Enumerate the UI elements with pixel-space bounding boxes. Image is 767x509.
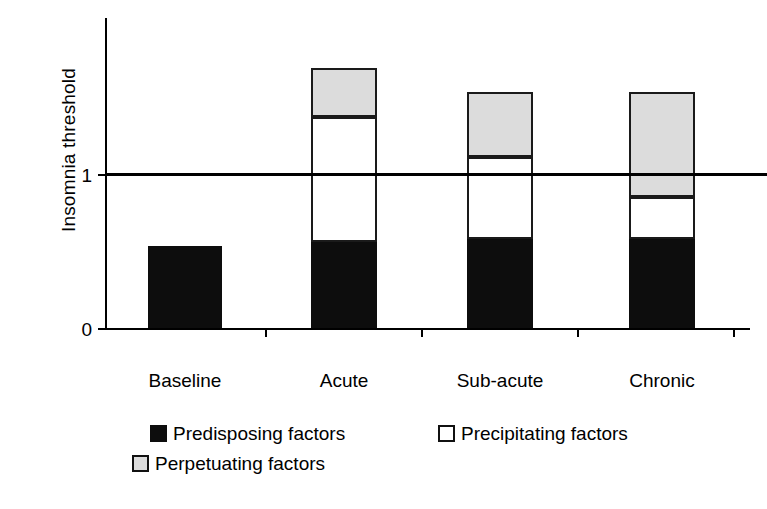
bar-chronic-segment-predisposing[interactable] — [629, 239, 695, 328]
y-axis-title: Insomnia threshold — [46, 0, 92, 300]
legend-swatch-precipitating-icon — [438, 425, 455, 442]
bar-sub-acute[interactable] — [467, 16, 533, 328]
bar-baseline-segment-predisposing[interactable] — [148, 246, 222, 328]
x-axis-label-sub-acute: Sub-acute — [457, 370, 544, 392]
legend-item-perpetuating[interactable]: Perpetuating factors — [132, 454, 325, 473]
insomnia-threshold-stacked-bar-chart: Insomnia threshold 0 1 — [0, 0, 767, 509]
legend-swatch-perpetuating-icon — [132, 455, 149, 472]
bar-sub-acute-segment-predisposing[interactable] — [467, 239, 533, 328]
y-tick-0: 0 — [98, 328, 106, 330]
bar-sub-acute-segment-perpetuating[interactable] — [467, 92, 533, 157]
x-axis-label-chronic: Chronic — [629, 370, 694, 392]
bar-acute-segment-perpetuating[interactable] — [311, 68, 377, 117]
bar-acute[interactable] — [311, 16, 377, 328]
legend-label-predisposing: Predisposing factors — [173, 424, 345, 443]
x-tick-1 — [265, 328, 267, 337]
x-axis-label-acute: Acute — [320, 370, 369, 392]
y-tick-label-0: 0 — [81, 320, 92, 339]
bar-acute-segment-precipitating[interactable] — [311, 117, 377, 242]
legend-swatch-predisposing-icon — [150, 425, 167, 442]
x-tick-3 — [577, 328, 579, 337]
bar-chronic-segment-precipitating[interactable] — [629, 197, 695, 239]
x-tick-4 — [733, 328, 735, 337]
x-tick-2 — [421, 328, 423, 337]
legend-item-predisposing[interactable]: Predisposing factors — [150, 424, 345, 443]
insomnia-threshold-line — [105, 173, 767, 176]
legend-label-precipitating: Precipitating factors — [461, 424, 628, 443]
bar-baseline[interactable] — [148, 16, 222, 328]
bar-acute-segment-predisposing[interactable] — [311, 242, 377, 328]
bar-chronic[interactable] — [629, 16, 695, 328]
bar-chronic-segment-perpetuating[interactable] — [629, 92, 695, 197]
legend-label-perpetuating: Perpetuating factors — [155, 454, 325, 473]
x-axis-label-baseline: Baseline — [149, 370, 222, 392]
plot-area: 0 1 — [105, 18, 750, 330]
x-axis-line — [105, 328, 750, 330]
y-tick-label-1: 1 — [81, 166, 92, 185]
bar-sub-acute-segment-precipitating[interactable] — [467, 157, 533, 239]
legend-item-precipitating[interactable]: Precipitating factors — [438, 424, 628, 443]
